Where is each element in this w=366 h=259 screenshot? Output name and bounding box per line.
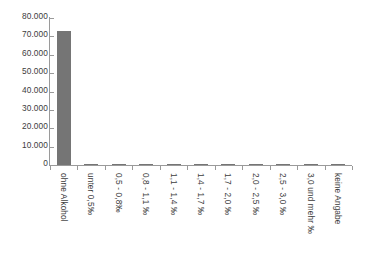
x-axis-tick-label: 2,0 - 2,5 ‰ xyxy=(251,173,260,215)
y-axis-tick-label: 70.000 xyxy=(22,30,48,39)
bar xyxy=(249,164,263,165)
bar xyxy=(57,31,71,165)
x-axis-tick-mark xyxy=(77,166,78,170)
x-axis-line xyxy=(49,165,352,166)
bar xyxy=(84,164,98,165)
bar-slot xyxy=(187,18,214,165)
y-axis-tick-label: 50.000 xyxy=(22,67,48,76)
plot-area xyxy=(50,18,352,165)
bar xyxy=(112,164,126,165)
x-axis-tick-mark xyxy=(50,166,51,170)
bar-slot xyxy=(50,18,77,165)
x-axis-tick-label: 1,4 - 1,7 ‰ xyxy=(196,173,205,215)
bar xyxy=(194,164,208,165)
x-axis-tick-mark xyxy=(325,166,326,170)
x-axis-tick-mark xyxy=(160,166,161,170)
bar-slot xyxy=(270,18,297,165)
bar xyxy=(276,164,290,165)
x-axis-tick-label: 1,7 - 2,0 ‰ xyxy=(223,173,232,215)
bar-slot xyxy=(325,18,352,165)
bar-slot xyxy=(242,18,269,165)
x-axis-tick-label: 2,5 - 3,0 ‰ xyxy=(278,173,287,215)
x-axis-tick-mark xyxy=(105,166,106,170)
bar-slot xyxy=(215,18,242,165)
x-axis-tick-mark xyxy=(215,166,216,170)
y-axis-tick-label: 80.000 xyxy=(22,12,48,21)
bar-slot xyxy=(132,18,159,165)
x-axis-tick-mark xyxy=(352,166,353,170)
x-axis-tick-mark xyxy=(132,166,133,170)
bar-slot xyxy=(160,18,187,165)
x-axis-tick-mark xyxy=(187,166,188,170)
x-axis-tick-label: keine Angabe xyxy=(333,173,342,225)
x-axis-tick-label: 1,1 - 1,4 ‰ xyxy=(169,173,178,215)
bar xyxy=(331,164,345,165)
y-axis-tick-label: 0 xyxy=(43,159,48,168)
bar xyxy=(221,164,235,165)
x-axis-tick-label: 3,0 und mehr ‰ xyxy=(306,173,315,234)
x-axis-tick-label: unter 0,5‰ xyxy=(86,173,95,215)
bar xyxy=(139,164,153,165)
bar xyxy=(304,164,318,165)
y-axis-tick-label: 40.000 xyxy=(22,86,48,95)
bar-slot xyxy=(77,18,104,165)
x-axis-tick-label: 0,8 - 1,1 ‰ xyxy=(141,173,150,215)
x-axis-tick-label: 0,5 - 0,8‰ xyxy=(114,173,123,213)
x-axis-tick-mark xyxy=(242,166,243,170)
y-axis-tick-label: 20.000 xyxy=(22,122,48,131)
bar-slot xyxy=(105,18,132,165)
x-axis-tick-mark xyxy=(270,166,271,170)
y-axis-tick-label: 60.000 xyxy=(22,49,48,58)
x-axis-tick-label: ohne Alkohol xyxy=(59,173,68,222)
y-axis-tick-label: 10.000 xyxy=(22,141,48,150)
y-axis-tick-label: 30.000 xyxy=(22,104,48,113)
bar-chart-figure: 010.00020.00030.00040.00050.00060.00070.… xyxy=(0,0,366,259)
bar xyxy=(167,164,181,165)
x-axis-tick-mark xyxy=(297,166,298,170)
bar-slot xyxy=(297,18,324,165)
